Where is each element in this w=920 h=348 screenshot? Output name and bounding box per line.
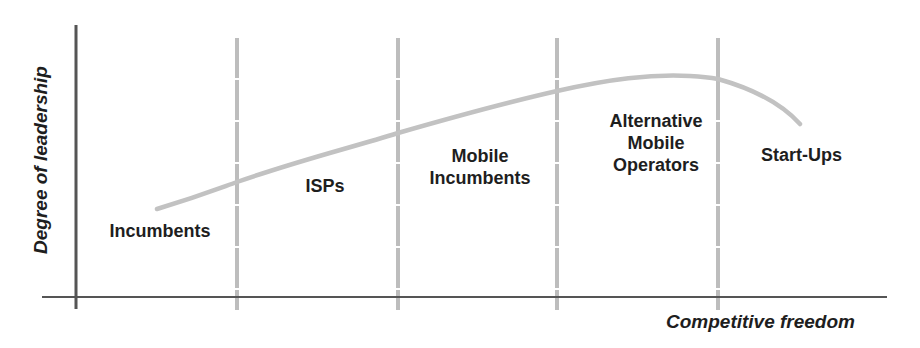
segment-label-isps: ISPs — [295, 175, 355, 197]
y-axis-label: Degree of leadership — [30, 66, 52, 254]
segment-label-incumbents: Incumbents — [101, 220, 219, 242]
x-axis-label: Competitive freedom — [666, 311, 855, 333]
segment-label-mobile-incumbents: Mobile Incumbents — [415, 145, 545, 189]
segment-label-alternative-mobile-operators: Alternative Mobile Operators — [595, 110, 717, 176]
segment-label-start-ups: Start-Ups — [750, 144, 853, 166]
